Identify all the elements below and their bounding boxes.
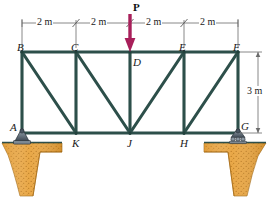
joint-label-H: H (180, 138, 188, 149)
soil-wedge-right (204, 143, 266, 196)
dimension-label-span-4: 2 m (199, 17, 216, 27)
joint-label-C: C (71, 42, 78, 53)
joint-label-B: B (17, 42, 24, 53)
soil-wedge-left (2, 143, 62, 196)
joint-label-G: G (241, 121, 249, 132)
dimension-label-span-1: 2 m (36, 17, 53, 27)
joint-label-J: J (127, 138, 132, 149)
truss-figure: P 2 m 2 m 2 m 2 m 3 m B C D E F A K J H … (0, 0, 271, 199)
joint-label-E: E (179, 42, 186, 53)
member-verticals (22, 52, 238, 133)
joint-label-D: D (133, 57, 141, 68)
load-label-P: P (133, 2, 140, 13)
truss-members (22, 52, 238, 133)
truss-diagram-canvas (0, 0, 271, 199)
dimension-label-height: 3 m (246, 86, 263, 96)
joint-label-F: F (233, 42, 240, 53)
joint-label-K: K (72, 138, 79, 149)
dimension-label-span-2: 2 m (90, 17, 107, 27)
joint-label-A: A (10, 122, 17, 133)
dimension-label-span-3: 2 m (145, 17, 162, 27)
load-arrow-P (125, 14, 136, 52)
